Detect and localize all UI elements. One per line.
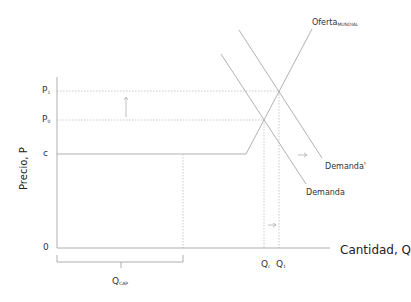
qcap-label: QCAP [112, 276, 128, 286]
up-arrow-icon [124, 97, 128, 117]
supply-label: OfertaMUNDIAL [312, 18, 358, 27]
qc-label: Qc [261, 259, 271, 269]
demand-prime-curve [239, 30, 322, 158]
right-arrow-icon [298, 153, 307, 157]
demand-curve [221, 54, 306, 184]
demand-prime-label: Demanda' [325, 162, 366, 171]
p1-label: P1 [42, 85, 50, 95]
zero-label: 0 [43, 242, 49, 252]
y-axis-title: Precio, P [18, 147, 29, 190]
q1-label: Q1 [276, 259, 286, 269]
p0-label: P0 [42, 114, 50, 124]
x-axis-title: Cantidad, Q [340, 243, 411, 257]
demand-label: Demanda [306, 188, 345, 197]
c-label: c [43, 148, 48, 158]
qcap-bracket [57, 255, 183, 262]
right-arrow-icon [268, 223, 276, 227]
